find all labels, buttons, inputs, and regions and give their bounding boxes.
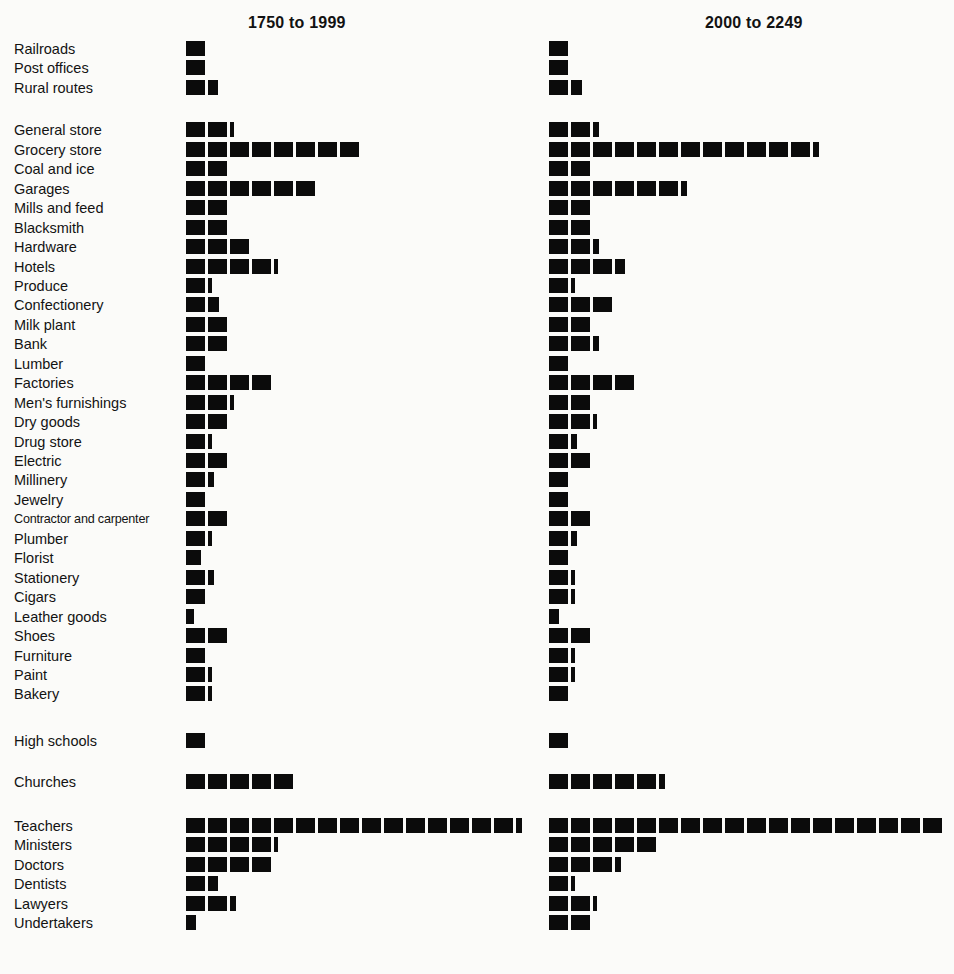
- bar-block: [208, 220, 227, 235]
- bar-block: [340, 142, 359, 157]
- bar-block: [362, 818, 381, 833]
- bar-block-partial: [274, 259, 278, 274]
- bar-block-partial: [186, 550, 201, 565]
- bar-block: [637, 774, 656, 789]
- bar-block: [186, 356, 205, 371]
- bar-block: [549, 60, 568, 75]
- bar-block: [186, 837, 205, 852]
- row-label: Confectionery: [14, 298, 180, 313]
- bar-block-partial: [208, 531, 212, 546]
- bar-block-partial: [571, 80, 582, 95]
- row-label: Milk plant: [14, 318, 180, 333]
- bar-block: [571, 857, 590, 872]
- bar-block: [186, 239, 205, 254]
- row-label: Coal and ice: [14, 162, 180, 177]
- bar-block-partial: [593, 122, 599, 137]
- bar-block: [208, 336, 227, 351]
- bar-block: [230, 774, 249, 789]
- bar-block: [857, 818, 876, 833]
- bar-block: [747, 142, 766, 157]
- bar-block: [208, 395, 227, 410]
- bar-block: [186, 181, 205, 196]
- bar-block: [571, 239, 590, 254]
- bar-block: [549, 278, 568, 293]
- bar-block: [252, 774, 271, 789]
- bar-block: [549, 181, 568, 196]
- row-label: Ministers: [14, 838, 180, 853]
- bar-block: [549, 142, 568, 157]
- row-label: High schools: [14, 734, 180, 749]
- row-label: Railroads: [14, 42, 180, 57]
- bar-block: [549, 297, 568, 312]
- row-label: Factories: [14, 376, 180, 391]
- bar-block: [769, 818, 788, 833]
- bar-block: [549, 220, 568, 235]
- bar-block: [571, 453, 590, 468]
- row-label: Undertakers: [14, 916, 180, 931]
- bar-block: [208, 857, 227, 872]
- bar-block: [835, 818, 854, 833]
- bar-block: [593, 818, 612, 833]
- bar-block: [703, 818, 722, 833]
- bar-block: [549, 857, 568, 872]
- bar-block-partial: [186, 915, 196, 930]
- bar-block: [208, 628, 227, 643]
- row-label: Leather goods: [14, 610, 180, 625]
- row-label: Churches: [14, 775, 180, 790]
- bar-block: [252, 837, 271, 852]
- bar-block: [549, 434, 568, 449]
- bar-block: [186, 570, 205, 585]
- bar-block: [549, 161, 568, 176]
- bar-block-partial: [681, 181, 687, 196]
- bar-block-partial: [571, 876, 575, 891]
- bar-block: [186, 774, 205, 789]
- row-label: Lumber: [14, 357, 180, 372]
- bar-block: [230, 375, 249, 390]
- row-label: Hardware: [14, 240, 180, 255]
- bar-block: [274, 181, 293, 196]
- bar-block: [549, 317, 568, 332]
- bar-block: [274, 142, 293, 157]
- bar-block: [186, 472, 205, 487]
- bar-block: [186, 434, 205, 449]
- row-label: Contractor and carpenter: [14, 512, 180, 527]
- row-label: Hotels: [14, 260, 180, 275]
- bar-block: [571, 161, 590, 176]
- bar-block: [571, 414, 590, 429]
- bar-block-partial: [208, 667, 212, 682]
- bar-block: [208, 837, 227, 852]
- bar-block: [637, 837, 656, 852]
- bar-block: [208, 122, 227, 137]
- row-label: Paint: [14, 668, 180, 683]
- bar-block: [186, 60, 205, 75]
- bar-block: [406, 818, 425, 833]
- bar-block: [186, 589, 205, 604]
- bar-block: [318, 818, 337, 833]
- chart-page: 1750 to 1999 2000 to 2249 RailroadsPost …: [0, 0, 954, 974]
- bar-block: [549, 686, 568, 701]
- bar-block: [186, 375, 205, 390]
- bar-block-partial: [549, 609, 559, 624]
- bar-block-partial: [186, 609, 194, 624]
- bar-block: [659, 142, 678, 157]
- bar-block: [230, 818, 249, 833]
- bar-block: [901, 818, 920, 833]
- bar-block: [813, 818, 832, 833]
- bar-block: [571, 200, 590, 215]
- bar-block: [186, 453, 205, 468]
- bar-block: [549, 896, 568, 911]
- bar-block: [549, 80, 568, 95]
- bar-block: [494, 818, 513, 833]
- bar-block-partial: [615, 857, 621, 872]
- bar-block: [593, 297, 612, 312]
- bar-block: [549, 239, 568, 254]
- bar-block: [681, 818, 700, 833]
- row-label: Garages: [14, 182, 180, 197]
- bar-block: [186, 531, 205, 546]
- bar-block: [549, 733, 568, 748]
- bar-block: [252, 857, 271, 872]
- panel-title-right: 2000 to 2249: [705, 14, 803, 32]
- bar-block: [659, 181, 678, 196]
- bar-block: [208, 200, 227, 215]
- bar-block: [230, 239, 249, 254]
